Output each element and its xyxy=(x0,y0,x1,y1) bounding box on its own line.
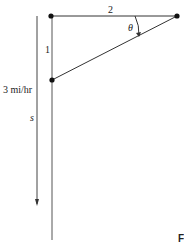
angle-label: θ xyxy=(128,22,133,33)
top-left-point xyxy=(48,13,53,18)
figure-letter: F xyxy=(178,233,184,244)
top-length-label: 2 xyxy=(108,4,113,15)
related-rates-diagram: 2 1 θ 3 mi/hr s F xyxy=(0,0,184,246)
speed-arrowhead-icon xyxy=(35,199,39,206)
distance-label: s xyxy=(30,112,34,123)
moving-point xyxy=(49,77,54,82)
speed-label: 3 mi/hr xyxy=(3,84,33,95)
left-length-label: 1 xyxy=(45,44,50,55)
hypotenuse-line xyxy=(52,16,177,80)
top-right-point xyxy=(174,13,179,18)
